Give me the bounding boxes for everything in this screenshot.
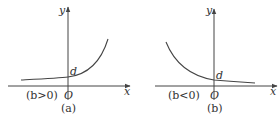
panel-b-caption: (b) <box>207 102 223 115</box>
panel-a-x-label: x <box>124 85 131 98</box>
panel-b: y x d O (b<0) (b) <box>155 4 277 115</box>
panel-b-condition: (b<0) <box>168 89 200 102</box>
panel-a-origin-label: O <box>64 89 73 102</box>
panel-a-curve <box>21 39 108 80</box>
panel-a-caption: (a) <box>61 102 76 115</box>
panel-a-condition: (b>0) <box>26 89 58 102</box>
panel-b-origin-label: O <box>210 89 219 102</box>
panel-b-intercept-label: d <box>216 69 223 82</box>
exponential-graphs-figure: y x d O (b>0) (a) y x d O (b<0) (b) <box>0 0 280 124</box>
panel-a-y-label: y <box>58 4 66 17</box>
panel-b-y-label: y <box>205 4 213 17</box>
panel-a-intercept-label: d <box>70 65 77 78</box>
panel-a: y x d O (b>0) (a) <box>8 4 131 115</box>
panel-b-x-label: x <box>270 85 277 98</box>
panel-b-curve <box>166 42 255 83</box>
